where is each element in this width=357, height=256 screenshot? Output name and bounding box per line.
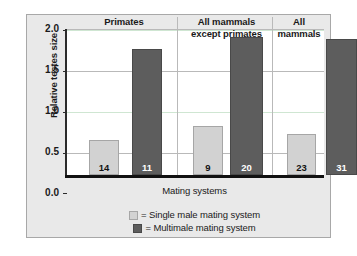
bar-all-mammals-except-primates-multimale[interactable]: 20 — [230, 37, 263, 175]
gridline-1_0 — [67, 112, 324, 113]
plot-area: Primates All mammals except primates All… — [65, 16, 324, 236]
legend-item-single-male[interactable]: = Single male mating system — [129, 209, 260, 221]
y-tick-label-0_5: 0.5 — [33, 147, 59, 157]
plot-background: Primates All mammals except primates All… — [67, 29, 324, 175]
legend-label-multimale: = Multimale mating system — [145, 222, 255, 234]
group-header-all-mammals-except-primates: All mammals except primates — [179, 16, 274, 39]
bar-label-n-23: 23 — [288, 163, 315, 173]
y-tick-label-0: 0.0 — [33, 188, 59, 198]
legend-item-multimale[interactable]: = Multimale mating system — [133, 222, 255, 234]
y-tick-label-1: 1.0 — [33, 106, 59, 116]
group-header-all-mammals-except-primates-line1: All mammals — [179, 16, 274, 28]
legend-swatch-single-male-icon — [129, 211, 138, 220]
x-axis-title: Mating systems — [65, 185, 324, 196]
bar-all-mammals-multimale[interactable]: 31 — [326, 39, 357, 175]
gridline-1_5 — [67, 71, 324, 72]
bar-label-n-31: 31 — [327, 163, 356, 173]
bar-primates-single-male[interactable]: 14 — [89, 140, 119, 175]
bar-label-n-11: 11 — [133, 163, 161, 173]
legend-label-single-male: = Single male mating system — [141, 209, 260, 221]
y-axis-tick-labels: 2.0 1.5 1.0 0.5 0.0 — [29, 15, 59, 237]
y-tick-label-2: 2.0 — [33, 24, 59, 34]
y-axis-spine — [65, 29, 67, 177]
group-header-all-mammals: All mammals — [274, 16, 324, 39]
bar-label-n-14: 14 — [90, 163, 118, 173]
chart-legend: = Single male mating system = Multimale … — [65, 209, 324, 234]
group-header-all-mammals-line1: All mammals — [274, 16, 324, 39]
group-header-band: Primates All mammals except primates All… — [69, 17, 324, 43]
chart-figure: Relative testes size 2.0 1.5 1.0 0.5 0.0 — [0, 0, 357, 256]
bar-all-mammals-except-primates-single-male[interactable]: 9 — [193, 126, 223, 175]
bar-label-n-9: 9 — [194, 163, 222, 173]
chart-panel: Relative testes size 2.0 1.5 1.0 0.5 0.0 — [26, 14, 331, 238]
group-header-primates: Primates — [69, 16, 179, 28]
bar-label-n-20: 20 — [231, 163, 262, 173]
legend-swatch-multimale-icon — [133, 224, 142, 233]
y-tick-label-1_5: 1.5 — [33, 65, 59, 75]
bar-primates-multimale[interactable]: 11 — [132, 49, 162, 175]
bar-all-mammals-single-male[interactable]: 23 — [287, 134, 316, 175]
x-axis-baseline — [65, 175, 324, 178]
group-header-primates-line1: Primates — [69, 16, 179, 28]
